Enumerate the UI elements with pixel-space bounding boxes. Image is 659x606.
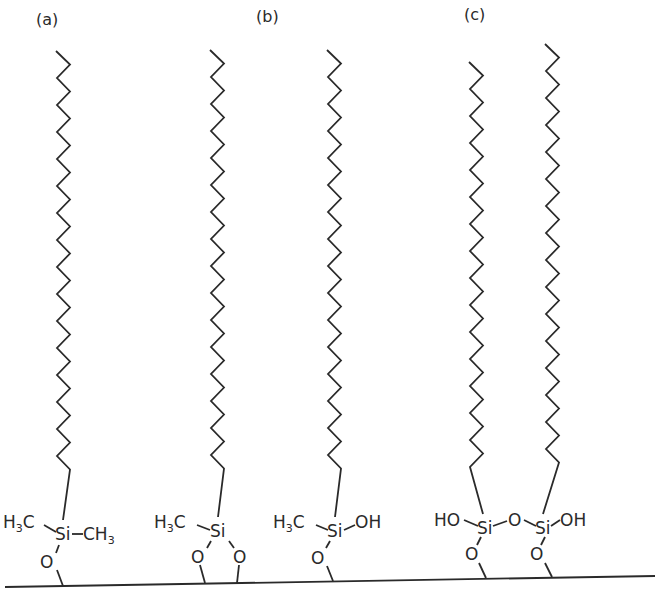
silane-monolayer-diagram: (a) (b) (c) H3C Si CH3 O H3C Si O O H3C … xyxy=(0,0,659,606)
alkyl-chain xyxy=(327,50,341,517)
substrate-surface-line xyxy=(5,576,655,587)
oxygen-atom: O xyxy=(311,548,324,568)
silicon-atom: Si xyxy=(210,521,226,541)
methyl-group-right: CH3 xyxy=(83,524,115,547)
methyl-group-left: H3C xyxy=(273,512,305,535)
bond xyxy=(326,541,330,548)
molecule-c-right: Si OH O xyxy=(524,510,586,577)
molecule-a: H3C Si CH3 O xyxy=(3,512,115,586)
silicon-atom: Si xyxy=(535,518,551,538)
methyl-group-left: H3C xyxy=(154,512,186,535)
oxygen-atom: O xyxy=(530,544,543,564)
panel-label-b: (b) xyxy=(256,7,279,26)
bond xyxy=(57,570,63,586)
bridging-oxygen-atom: O xyxy=(508,510,521,530)
bond xyxy=(464,520,478,526)
bond xyxy=(207,541,211,548)
bond xyxy=(344,525,355,530)
silicon-atom: Si xyxy=(55,524,71,544)
bond xyxy=(479,563,486,578)
bond xyxy=(545,563,552,577)
bond xyxy=(56,545,59,553)
bond xyxy=(200,565,205,583)
bond xyxy=(551,520,560,526)
panel-label-c: (c) xyxy=(464,5,485,24)
bond xyxy=(493,521,507,526)
oxygen-atom: O xyxy=(191,547,204,567)
hydroxyl-group: HO xyxy=(434,510,460,530)
hydroxyl-group: OH xyxy=(355,512,381,532)
hydroxyl-group: OH xyxy=(560,510,586,530)
silicon-atom: Si xyxy=(327,521,343,541)
silicon-atom: Si xyxy=(477,518,493,538)
oxygen-atom: O xyxy=(233,547,246,567)
panel-label-a: (a) xyxy=(36,10,58,29)
molecule-c-left: HO Si O O xyxy=(434,510,521,578)
molecule-b-silanol: H3C Si OH O xyxy=(273,512,381,581)
bond xyxy=(197,525,210,530)
molecule-b-bidentate: H3C Si O O xyxy=(154,512,246,583)
alkyl-chain xyxy=(469,62,483,514)
bond xyxy=(237,565,239,583)
bond xyxy=(327,566,333,581)
oxygen-atom: O xyxy=(465,544,478,564)
methyl-group-left: H3C xyxy=(3,512,35,535)
alkyl-chains xyxy=(56,44,559,520)
alkyl-chain xyxy=(210,50,224,517)
alkyl-chain xyxy=(543,44,559,514)
oxygen-atom: O xyxy=(40,552,53,572)
alkyl-chain xyxy=(56,51,70,520)
